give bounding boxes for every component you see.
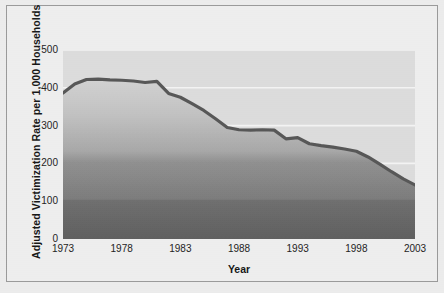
chart-figure: Adjusted Victimization Rate per 1,000 Ho… — [0, 0, 444, 293]
y-tick-label: 100 — [24, 196, 58, 206]
x-tick-label: 1978 — [100, 243, 144, 254]
y-tick-label: 400 — [24, 83, 58, 93]
x-tick-label: 1988 — [217, 243, 261, 254]
area-chart-svg — [63, 50, 415, 239]
x-tick-label: 1993 — [276, 243, 320, 254]
x-tick-label: 2003 — [393, 243, 437, 254]
y-tick-label: 500 — [24, 45, 58, 55]
plot-area — [63, 50, 415, 239]
x-axis-title: Year — [63, 263, 415, 275]
x-tick-label: 1973 — [41, 243, 85, 254]
x-tick-label: 1998 — [334, 243, 378, 254]
y-tick-label: 300 — [24, 121, 58, 131]
plot-wrapper: Adjusted Victimization Rate per 1,000 Ho… — [0, 0, 444, 293]
x-tick-label: 1983 — [158, 243, 202, 254]
y-tick-label: 200 — [24, 158, 58, 168]
